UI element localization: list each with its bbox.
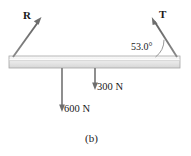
vector-R-shaft <box>13 22 39 58</box>
horizontal-beam <box>9 56 180 68</box>
free-body-diagram: R T 53.0° 300 N 600 N (b) <box>0 0 191 156</box>
vector-label-R: R <box>23 10 31 21</box>
vector-R-arrowhead <box>34 17 42 25</box>
load-label-300: 300 N <box>97 82 123 93</box>
angle-arc <box>156 40 165 57</box>
vector-R <box>13 17 42 57</box>
beam-group <box>9 56 180 68</box>
load-label-600: 600 N <box>64 104 90 115</box>
vector-T-shaft <box>155 22 178 58</box>
vector-label-T: T <box>159 9 166 20</box>
angle-label: 53.0° <box>131 42 153 52</box>
vector-T-arrowhead <box>152 17 158 25</box>
vector-T <box>152 17 177 57</box>
figure-caption: (b) <box>85 133 98 144</box>
